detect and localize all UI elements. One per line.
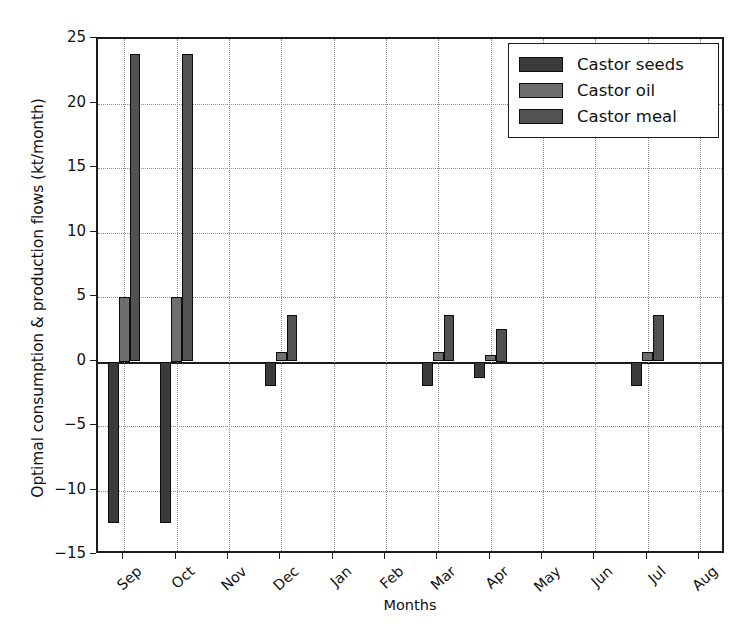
- x-tick-label: Jun: [588, 563, 616, 590]
- legend-label: Castor meal: [577, 107, 677, 126]
- x-tick-label: Aug: [689, 563, 721, 594]
- bar: [433, 352, 444, 362]
- x-tick-mark: [384, 553, 385, 559]
- y-tick-mark: [90, 295, 96, 296]
- bar: [422, 362, 433, 387]
- y-tick-label: 15: [26, 157, 86, 175]
- x-tick-mark: [436, 553, 437, 559]
- bar: [160, 362, 171, 523]
- x-tick-label: Sep: [114, 563, 145, 593]
- x-axis-label: Months: [96, 597, 724, 613]
- gridline-vertical: [386, 39, 387, 551]
- legend-item[interactable]: Castor oil: [519, 77, 708, 103]
- x-tick-label: Nov: [218, 563, 250, 594]
- y-tick-label: 0: [26, 351, 86, 369]
- x-tick-mark: [698, 553, 699, 559]
- gridline-vertical: [229, 39, 230, 551]
- chart-figure: Optimal consumption & production flows (…: [0, 0, 748, 629]
- x-tick-label: Mar: [428, 563, 459, 593]
- bar: [276, 352, 287, 362]
- x-tick-label: Jul: [644, 563, 668, 587]
- bar: [444, 315, 455, 361]
- zero-axis-line: [98, 362, 722, 364]
- bar: [474, 362, 485, 379]
- y-tick-mark: [90, 166, 96, 167]
- legend-swatch: [519, 57, 563, 72]
- bar: [171, 297, 182, 362]
- y-tick-mark: [90, 231, 96, 232]
- bar: [631, 362, 642, 387]
- y-tick-label: −15: [26, 544, 86, 562]
- legend-label: Castor seeds: [577, 55, 684, 74]
- x-tick-mark: [122, 553, 123, 559]
- legend-swatch: [519, 83, 563, 98]
- x-tick-mark: [646, 553, 647, 559]
- x-tick-label: Apr: [482, 563, 511, 592]
- gridline-vertical: [491, 39, 492, 551]
- bar: [642, 352, 653, 362]
- y-tick-label: −5: [26, 415, 86, 433]
- x-tick-label: Oct: [168, 563, 197, 592]
- gridline-vertical: [438, 39, 439, 551]
- gridline-vertical: [281, 39, 282, 551]
- y-tick-label: 5: [26, 286, 86, 304]
- x-tick-mark: [332, 553, 333, 559]
- bar: [108, 362, 119, 523]
- x-tick-mark: [175, 553, 176, 559]
- y-tick-mark: [90, 424, 96, 425]
- y-tick-mark: [90, 553, 96, 554]
- y-tick-mark: [90, 37, 96, 38]
- legend-label: Castor oil: [577, 81, 655, 100]
- gridline-horizontal: [98, 426, 722, 427]
- bar: [265, 362, 276, 387]
- y-tick-label: 10: [26, 222, 86, 240]
- gridline-horizontal: [98, 491, 722, 492]
- x-tick-label: May: [531, 563, 564, 595]
- bar: [182, 54, 193, 361]
- bar: [119, 297, 130, 362]
- x-tick-label: Feb: [377, 563, 407, 592]
- x-tick-mark: [489, 553, 490, 559]
- bar: [653, 315, 664, 361]
- y-tick-mark: [90, 489, 96, 490]
- y-tick-label: 25: [26, 28, 86, 46]
- x-tick-label: Jan: [327, 563, 354, 590]
- chart-legend: Castor seedsCastor oilCastor meal: [508, 43, 719, 138]
- gridline-vertical: [124, 39, 125, 551]
- x-tick-mark: [279, 553, 280, 559]
- x-tick-mark: [541, 553, 542, 559]
- x-tick-label: Dec: [270, 563, 302, 594]
- bar: [130, 54, 141, 361]
- x-tick-mark: [227, 553, 228, 559]
- bar: [485, 355, 496, 361]
- legend-swatch: [519, 109, 563, 124]
- bar: [496, 329, 507, 361]
- legend-item[interactable]: Castor seeds: [519, 51, 708, 77]
- legend-item[interactable]: Castor meal: [519, 103, 708, 129]
- y-tick-label: −10: [26, 480, 86, 498]
- bar: [287, 315, 298, 361]
- y-tick-mark: [90, 102, 96, 103]
- gridline-vertical: [334, 39, 335, 551]
- y-tick-label: 20: [26, 93, 86, 111]
- y-tick-mark: [90, 360, 96, 361]
- x-tick-mark: [593, 553, 594, 559]
- gridline-vertical: [177, 39, 178, 551]
